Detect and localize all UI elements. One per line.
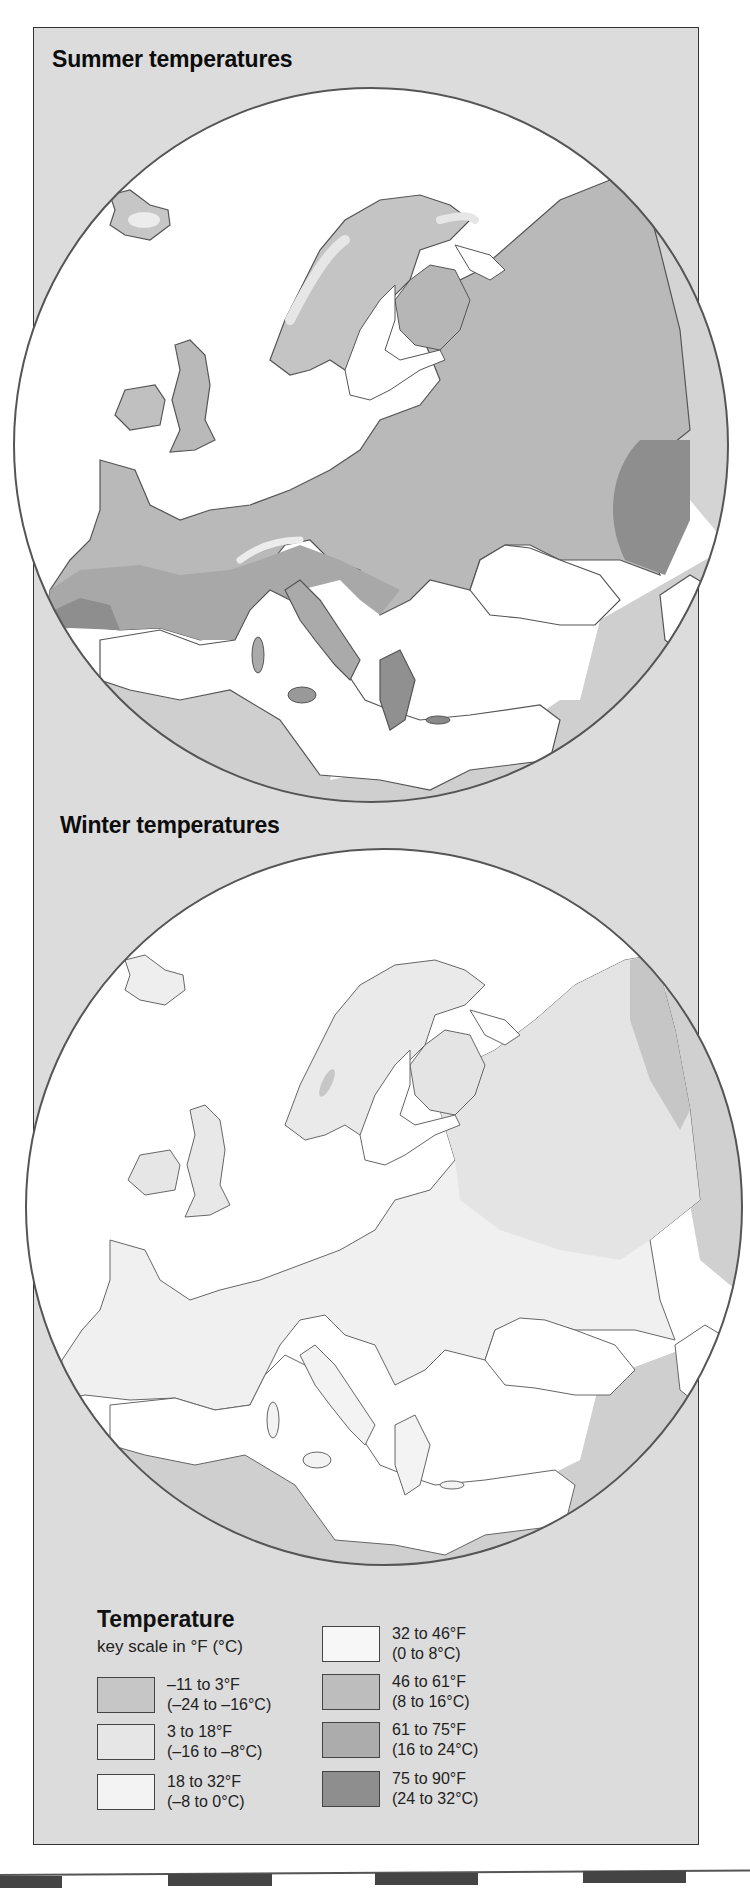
legend-swatch: [322, 1771, 380, 1807]
legend-item-celsius: (0 to 8°C): [392, 1645, 461, 1663]
legend-item-celsius: (–8 to 0°C): [167, 1793, 245, 1811]
legend-item-celsius: (24 to 32°C): [392, 1790, 478, 1808]
sicily: [303, 1452, 331, 1468]
legend-item-fahrenheit: –11 to 3°F: [167, 1676, 240, 1694]
legend-item-fahrenheit: 61 to 75°F: [392, 1721, 466, 1739]
legend-title: Temperature: [97, 1606, 235, 1633]
legend-swatch: [97, 1724, 155, 1760]
legend-item-fahrenheit: 3 to 18°F: [167, 1723, 232, 1741]
legend-item-celsius: (–16 to –8°C): [167, 1743, 262, 1761]
corsica-sardinia: [267, 1402, 279, 1438]
legend-swatch: [322, 1722, 380, 1758]
legend-item-celsius: (8 to 16°C): [392, 1693, 470, 1711]
legend-swatch: [322, 1626, 380, 1662]
crete: [440, 1481, 464, 1489]
legend-item-fahrenheit: 75 to 90°F: [392, 1770, 466, 1788]
legend-swatch: [322, 1674, 380, 1710]
legend-item-fahrenheit: 32 to 46°F: [392, 1625, 466, 1643]
legend-item-fahrenheit: 18 to 32°F: [167, 1773, 241, 1791]
legend-swatch: [97, 1774, 155, 1810]
legend-item-fahrenheit: 46 to 61°F: [392, 1673, 466, 1691]
winter-map-title: Winter temperatures: [60, 812, 280, 839]
legend-subtitle: key scale in °F (°C): [97, 1637, 243, 1657]
legend-item-celsius: (–24 to –16°C): [167, 1696, 271, 1714]
legend-item-celsius: (16 to 24°C): [392, 1741, 478, 1759]
winter-globe: [0, 840, 750, 1580]
summer-map-title: Summer temperatures: [52, 46, 292, 73]
legend-swatch: [97, 1677, 155, 1713]
